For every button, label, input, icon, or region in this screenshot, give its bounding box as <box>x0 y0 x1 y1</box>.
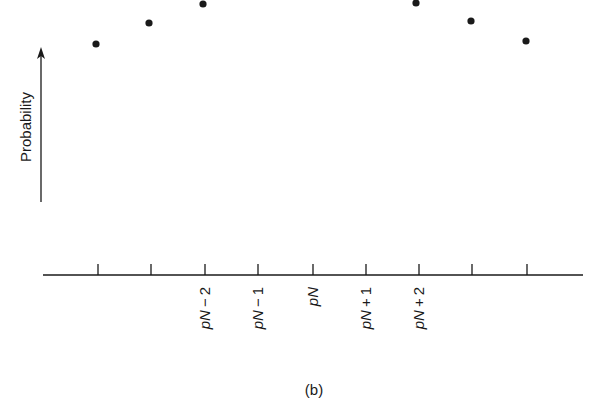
y-axis-arrow-icon <box>37 47 45 202</box>
data-point <box>199 0 206 7</box>
x-tick-label: pN + 1 <box>357 287 374 330</box>
x-axis-tick-labels: pN − 2pN − 1pNpN + 1pN + 2 <box>196 287 427 330</box>
data-points <box>92 0 529 48</box>
probability-dot-chart: Probability pN − 2pN − 1pNpN + 1pN + 2 (… <box>0 0 613 405</box>
x-axis-ticks <box>98 264 527 275</box>
x-tick-label: pN <box>304 287 321 307</box>
data-point <box>92 40 99 47</box>
data-point <box>412 0 419 7</box>
data-point <box>467 17 474 24</box>
data-point <box>522 37 529 44</box>
figure-caption: (b) <box>305 381 323 398</box>
x-tick-label: pN − 2 <box>196 287 213 330</box>
y-axis-label: Probability <box>17 91 34 162</box>
x-tick-label: pN − 1 <box>249 287 266 330</box>
x-tick-label: pN + 2 <box>410 287 427 330</box>
data-point <box>145 19 152 26</box>
